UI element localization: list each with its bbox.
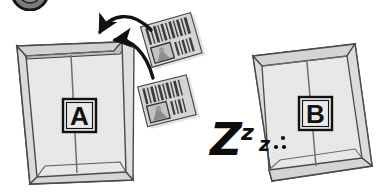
envelope-a-label-box: A [63,99,96,132]
cropped-circle-fragment [12,0,48,10]
envelope-a-label-text: A [70,101,89,131]
envelope-b-label-text: B [306,99,325,129]
envelope-a: A [17,42,134,184]
figure-canvas: A B [0,0,389,192]
sleep-mark-z-large: Z [208,114,243,165]
envelope-b-label-box: B [299,97,332,130]
diagram-svg: A B [0,0,389,192]
barcode-card-lower [138,74,200,130]
barcode-card-upper [141,12,206,70]
envelope-b: B [253,44,372,181]
sleep-mark-z-small: z [258,133,271,155]
sleep-mark-z-medium: z [240,120,254,145]
